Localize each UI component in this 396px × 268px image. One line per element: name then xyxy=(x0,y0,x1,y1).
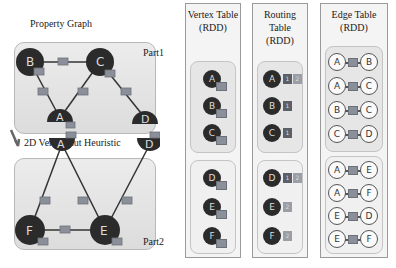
svg-text:F: F xyxy=(26,224,33,238)
edge-property-icon xyxy=(348,130,358,139)
partition-badge-1: 1 xyxy=(283,128,292,138)
edge-dst: D xyxy=(360,207,378,225)
edge-property-icon xyxy=(348,189,358,198)
partition-badge-1: 1 xyxy=(283,74,292,84)
vertex-table-column: Vertex Table (RDD) A B C D E F xyxy=(185,3,241,258)
partition-badge-2: 2 xyxy=(293,74,302,84)
vertex-property-icon xyxy=(216,136,227,145)
svg-text:C: C xyxy=(96,55,104,69)
edge-property-icon xyxy=(348,82,358,91)
edge-dst: C xyxy=(360,77,378,95)
svg-text:E: E xyxy=(100,224,108,238)
vertex-property-icon xyxy=(216,109,227,118)
edge-dst: F xyxy=(360,230,378,248)
edge-table-title: Edge Table (RDD) xyxy=(321,4,387,34)
edge-property-icon xyxy=(348,166,358,175)
routing-table-title: Routing Table (RDD) xyxy=(253,4,307,47)
edge-property-icon xyxy=(348,58,358,67)
routing-vertex: E xyxy=(263,198,281,216)
vertex-property-icon xyxy=(216,210,227,219)
vertex-property-icon xyxy=(216,239,227,248)
routing-vertex: C xyxy=(263,124,281,142)
routing-vertex: F xyxy=(263,227,281,245)
edge-partition-2: A E A F E D E F xyxy=(325,156,383,254)
routing-partition-2: D 1 2 E 2 F 2 xyxy=(257,160,303,254)
edge-src: A xyxy=(328,53,346,71)
routing-partition-1: A 1 2 B 1 C 1 xyxy=(257,61,303,153)
svg-text:D: D xyxy=(145,138,153,151)
vertex-partition-1: A B C xyxy=(190,61,236,153)
routing-table-column: Routing Table (RDD) A 1 2 B 1 C 1 D 1 2 … xyxy=(252,3,308,258)
routing-vertex: B xyxy=(263,97,281,115)
edge-src: A xyxy=(328,184,346,202)
partition-badge-1: 1 xyxy=(283,173,292,183)
edge-src: E xyxy=(328,230,346,248)
svg-text:D: D xyxy=(141,113,149,126)
edge-table-column: Edge Table (RDD) A B A C B C C D A E A F xyxy=(320,3,388,258)
svg-text:A: A xyxy=(57,138,65,151)
vertex-property-icon xyxy=(216,181,227,190)
edge-property-icon xyxy=(348,106,358,115)
edge-dst: C xyxy=(360,101,378,119)
edge-src: B xyxy=(328,101,346,119)
edge-property-icon xyxy=(348,212,358,221)
partition-2-graph: A D F E xyxy=(0,130,160,265)
vertex-property-icon xyxy=(216,82,227,91)
svg-text:A: A xyxy=(56,111,64,124)
vertex-table-title: Vertex Table (RDD) xyxy=(186,4,240,34)
partition-badge-2: 2 xyxy=(293,173,302,183)
routing-vertex: A xyxy=(263,70,281,88)
partition-1-graph: B C A D xyxy=(0,0,160,135)
edge-dst: D xyxy=(360,125,378,143)
edge-src: A xyxy=(328,77,346,95)
edge-src: E xyxy=(328,207,346,225)
edge-property-icon xyxy=(348,235,358,244)
routing-vertex: D xyxy=(263,169,281,187)
partition-badge-2: 2 xyxy=(283,202,292,212)
partition-badge-2: 2 xyxy=(283,231,292,241)
edge-partition-1: A B A C B C C D xyxy=(325,46,383,152)
svg-text:B: B xyxy=(26,55,34,69)
vertex-partition-2: D E F xyxy=(190,160,236,254)
edge-src: A xyxy=(328,161,346,179)
edge-dst: B xyxy=(360,53,378,71)
edge-dst: F xyxy=(360,184,378,202)
partition-badge-1: 1 xyxy=(283,101,292,111)
edge-dst: E xyxy=(360,161,378,179)
edge-src: C xyxy=(328,125,346,143)
